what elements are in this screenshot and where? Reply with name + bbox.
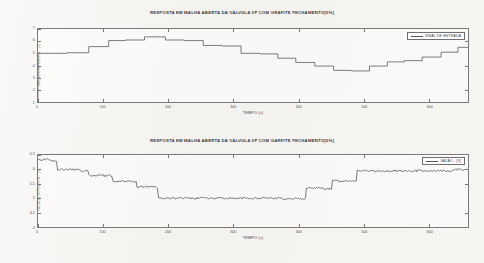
ytick-label: 5.5 (30, 182, 35, 186)
ytick-mark (38, 78, 41, 79)
ytick-label: 1 (33, 101, 35, 105)
ytick-label: 5 (33, 51, 35, 55)
figure-input-signal: RESPOSTA EM MALHA ABERTA DA VÁLVULA I/P … (0, 10, 484, 130)
xtick-mark (38, 99, 39, 102)
series-vazao (38, 159, 465, 200)
ytick-mark (38, 102, 41, 103)
ytick-mark (38, 169, 41, 170)
figure-top-legend: SINAL DE ENTRADA (407, 32, 465, 40)
ytick-mark (38, 66, 41, 67)
xtick-label: 200 (165, 230, 171, 234)
legend-line-swatch (426, 161, 438, 162)
figure-bottom-legend: VAZÃO - [V] (422, 157, 465, 165)
xtick-mark-top (233, 155, 234, 158)
xtick-mark-top (233, 29, 234, 32)
figure-top-series-svg (38, 29, 468, 102)
xtick-mark (38, 224, 39, 227)
xtick-label: 600 (427, 230, 433, 234)
legend-line-swatch (411, 36, 423, 37)
figure-top-plot-area: VAZÃO DA PLANTA - [V] (37, 28, 469, 103)
ytick-label: 6.5 (30, 152, 35, 156)
ytick-mark (38, 90, 41, 91)
ytick-label: 6 (33, 167, 35, 171)
ytick-mark-right (465, 90, 468, 91)
figure-top-title: RESPOSTA EM MALHA ABERTA DA VÁLVULA I/P … (0, 10, 484, 15)
xtick-mark-top (168, 155, 169, 158)
figure-bottom-plot-area: VAZÃO DA PLANTA - [V] (37, 154, 469, 228)
ytick-mark (38, 29, 41, 30)
ytick-mark (38, 155, 41, 156)
xtick-label: 400 (296, 230, 302, 234)
ytick-mark-right (465, 213, 468, 214)
series-sinal-de-entrada (38, 37, 468, 102)
xtick-label: 600 (427, 105, 433, 109)
figure-top-legend-label: SINAL DE ENTRADA (425, 34, 461, 38)
ytick-label: 3 (33, 76, 35, 80)
figure-bottom-series-svg (38, 155, 468, 227)
xtick-mark (429, 99, 430, 102)
ytick-label: 6 (33, 38, 35, 42)
xtick-label: 100 (99, 230, 105, 234)
xtick-label: 500 (361, 230, 367, 234)
ytick-mark (38, 227, 41, 228)
ytick-mark (38, 213, 41, 214)
xtick-label: 100 (99, 105, 105, 109)
xtick-mark-top (168, 29, 169, 32)
ytick-mark-right (465, 66, 468, 67)
xtick-mark (103, 99, 104, 102)
xtick-mark (429, 224, 430, 227)
ytick-mark (38, 41, 41, 42)
ytick-label: 4 (33, 64, 35, 68)
figure-bottom-title: RESPOSTA EM MALHA ABERTA DA VÁLVULA I/P … (0, 138, 484, 143)
figure-bottom-x-axis-label: TEMPO (s) (37, 235, 469, 240)
xtick-mark (233, 224, 234, 227)
figure-top-x-axis-label: TEMPO (s) (37, 110, 469, 115)
ytick-mark-right (465, 41, 468, 42)
ytick-label: 2 (33, 88, 35, 92)
xtick-mark (168, 224, 169, 227)
ytick-mark (38, 184, 41, 185)
xtick-label: 500 (361, 105, 367, 109)
xtick-label: 200 (165, 105, 171, 109)
ytick-mark (38, 53, 41, 54)
xtick-mark (299, 99, 300, 102)
ytick-mark-right (465, 184, 468, 185)
xtick-mark (168, 99, 169, 102)
xtick-mark (299, 224, 300, 227)
figure-bottom-legend-label: VAZÃO - [V] (440, 159, 461, 163)
figure-plant-response: RESPOSTA EM MALHA ABERTA DA VÁLVULA I/P … (0, 138, 484, 260)
xtick-mark-top (103, 155, 104, 158)
xtick-mark (364, 99, 365, 102)
xtick-mark (233, 99, 234, 102)
xtick-mark-top (299, 29, 300, 32)
ytick-label: 4.5 (30, 211, 35, 215)
xtick-mark-top (364, 155, 365, 158)
figure-bottom-axes: VAZÃO - [V] (37, 154, 469, 228)
xtick-label: 0 (36, 230, 38, 234)
xtick-mark (103, 224, 104, 227)
xtick-mark (364, 224, 365, 227)
xtick-label: 400 (296, 105, 302, 109)
xtick-label: 300 (230, 105, 236, 109)
ytick-label: 7 (33, 26, 35, 30)
xtick-mark-top (364, 29, 365, 32)
xtick-mark-top (103, 29, 104, 32)
ytick-mark (38, 198, 41, 199)
xtick-label: 300 (230, 230, 236, 234)
ytick-label: 4 (33, 226, 35, 230)
ytick-label: 5 (33, 196, 35, 200)
figure-top-axes: SINAL DE ENTRADA (37, 28, 469, 103)
ytick-mark-right (465, 169, 468, 170)
xtick-label: 0 (36, 105, 38, 109)
xtick-mark-top (299, 155, 300, 158)
